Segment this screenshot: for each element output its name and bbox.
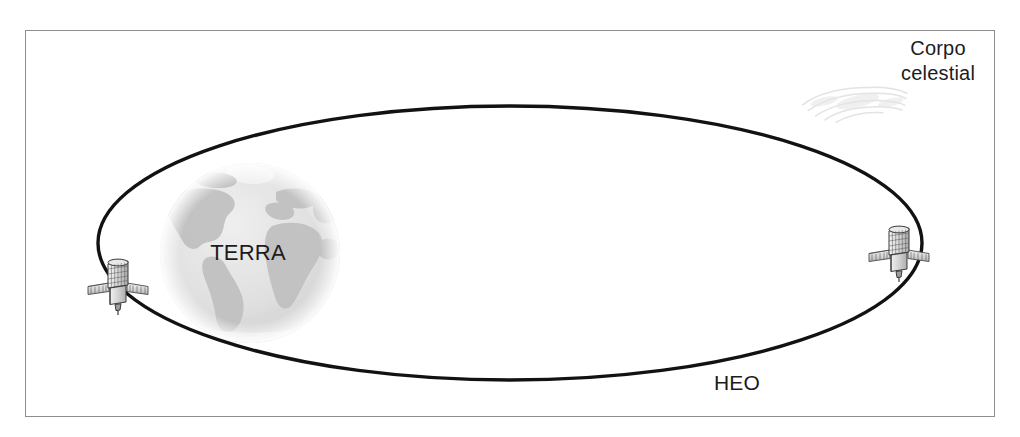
orbit-scene	[0, 0, 1020, 437]
label-heo: HEO	[700, 370, 774, 396]
figure-root: Corpo celestial TERRA HEO	[0, 0, 1020, 437]
label-corpo-celestial: Corpo celestial	[882, 36, 994, 86]
label-terra: TERRA	[186, 240, 310, 266]
satellite-left	[88, 259, 148, 315]
